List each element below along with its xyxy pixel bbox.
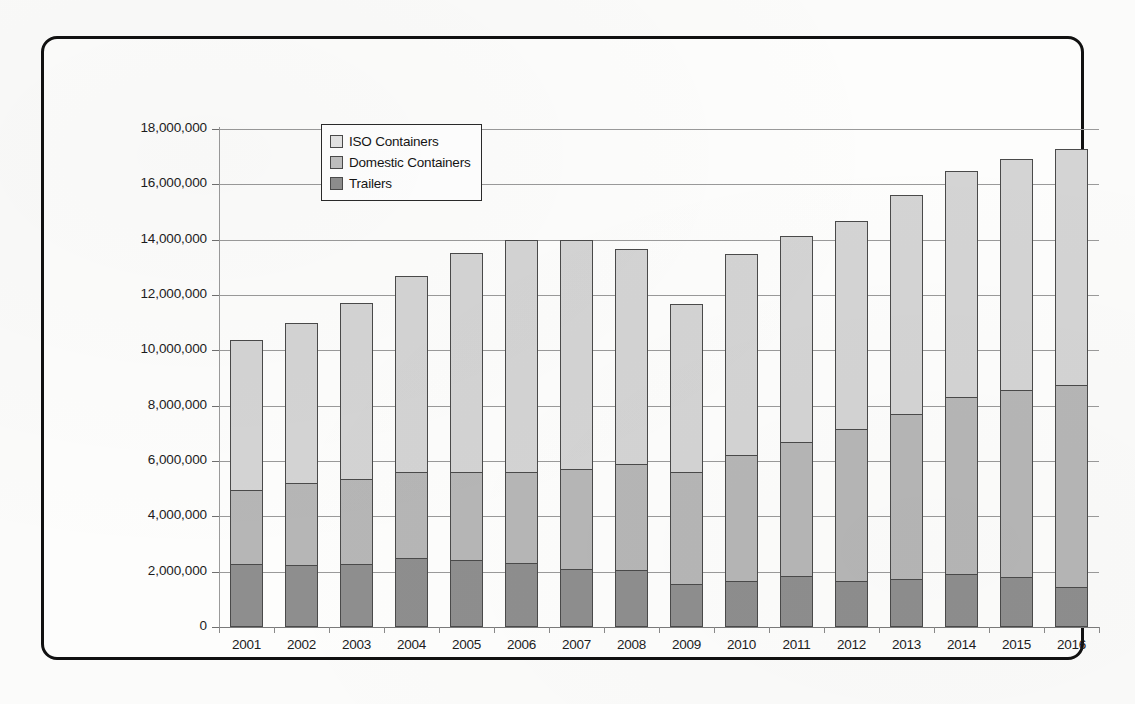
- stacked-bar: [340, 303, 373, 627]
- stacked-bar: [285, 323, 318, 627]
- bar-segment-domestic-containers: [670, 472, 703, 583]
- bar-segment-domestic-containers: [615, 464, 648, 571]
- bar-segment-trailers: [1055, 587, 1088, 627]
- x-axis-tick-mark: [384, 627, 385, 633]
- legend-label-domestic: Domestic Containers: [349, 155, 471, 170]
- bar-segment-trailers: [285, 565, 318, 627]
- bar-segment-trailers: [560, 569, 593, 627]
- legend-item-domestic: Domestic Containers: [330, 152, 471, 173]
- bar-segment-iso-containers: [670, 304, 703, 472]
- stacked-bar: [725, 254, 758, 627]
- x-axis-tick-mark: [989, 627, 990, 633]
- bar-segment-iso-containers: [945, 171, 978, 398]
- bar-segment-iso-containers: [505, 240, 538, 472]
- bar-segment-iso-containers: [890, 195, 923, 414]
- y-axis-tick-mark: [212, 461, 219, 462]
- stacked-bar: [615, 249, 648, 627]
- x-axis-tick-mark: [769, 627, 770, 633]
- bar-segment-trailers: [670, 584, 703, 627]
- stacked-bar: [1000, 159, 1033, 627]
- stacked-bar: [670, 304, 703, 627]
- bar-segment-domestic-containers: [725, 455, 758, 580]
- bar-segment-domestic-containers: [780, 442, 813, 577]
- bar-segment-iso-containers: [230, 340, 263, 490]
- bar-segment-trailers: [395, 558, 428, 627]
- x-axis-tick-label: 2016: [1039, 637, 1105, 652]
- chart-legend: ISO Containers Domestic Containers Trail…: [321, 124, 482, 201]
- bar-segment-domestic-containers: [340, 479, 373, 564]
- bar-segment-trailers: [835, 581, 868, 627]
- stacked-bar: [945, 171, 978, 627]
- bar-segment-domestic-containers: [505, 472, 538, 563]
- bar-segment-trailers: [725, 581, 758, 627]
- bar-segment-iso-containers: [835, 221, 868, 429]
- x-axis-tick-mark: [824, 627, 825, 633]
- y-axis-tick-mark: [212, 129, 219, 130]
- bar-segment-iso-containers: [560, 240, 593, 469]
- bar-segment-domestic-containers: [835, 429, 868, 581]
- y-axis-tick-mark: [212, 406, 219, 407]
- legend-label-trailers: Trailers: [349, 176, 392, 191]
- bar-segment-iso-containers: [450, 253, 483, 472]
- y-axis-tick-mark: [212, 627, 219, 628]
- bar-segment-trailers: [450, 560, 483, 627]
- y-axis-tick-mark: [212, 572, 219, 573]
- y-axis-tick-mark: [212, 184, 219, 185]
- x-axis-tick-mark: [879, 627, 880, 633]
- stacked-bar: [505, 240, 538, 627]
- legend-label-iso: ISO Containers: [349, 134, 439, 149]
- x-axis-tick-mark: [329, 627, 330, 633]
- bar-segment-iso-containers: [1055, 149, 1088, 385]
- bar-segment-domestic-containers: [1000, 390, 1033, 577]
- y-axis-tick-label: 12,000,000: [57, 286, 207, 301]
- stacked-bar: [230, 340, 263, 627]
- y-axis-tick-label: 14,000,000: [57, 231, 207, 246]
- bar-segment-domestic-containers: [890, 414, 923, 579]
- y-axis-tick-mark: [212, 350, 219, 351]
- stacked-bar: [890, 195, 923, 627]
- bar-segment-iso-containers: [340, 303, 373, 479]
- x-axis-tick-mark: [659, 627, 660, 633]
- bar-segment-domestic-containers: [230, 490, 263, 564]
- y-axis-tick-mark: [212, 516, 219, 517]
- stacked-bar: [395, 276, 428, 627]
- y-axis-tick-label: 10,000,000: [57, 341, 207, 356]
- legend-item-iso: ISO Containers: [330, 131, 471, 152]
- bar-segment-trailers: [505, 563, 538, 627]
- bar-segment-trailers: [340, 564, 373, 627]
- scanned-page: 02,000,0004,000,0006,000,0008,000,00010,…: [0, 0, 1135, 704]
- bar-segment-domestic-containers: [450, 472, 483, 560]
- stacked-bar: [780, 236, 813, 627]
- bar-segment-iso-containers: [1000, 159, 1033, 391]
- bar-segment-iso-containers: [780, 236, 813, 442]
- stacked-bar: [835, 221, 868, 627]
- stacked-bar: [1055, 149, 1088, 627]
- stacked-bar: [450, 253, 483, 627]
- plot-area: 02,000,0004,000,0006,000,0008,000,00010,…: [219, 129, 1099, 627]
- x-axis-tick-mark: [1099, 627, 1100, 633]
- stacked-bar: [560, 240, 593, 627]
- y-axis-tick-label: 18,000,000: [57, 120, 207, 135]
- y-axis-tick-label: 16,000,000: [57, 175, 207, 190]
- y-axis-tick-label: 2,000,000: [57, 563, 207, 578]
- x-axis-tick-mark: [439, 627, 440, 633]
- bar-segment-iso-containers: [725, 254, 758, 455]
- chart-frame: 02,000,0004,000,0006,000,0008,000,00010,…: [41, 36, 1084, 660]
- x-axis-tick-mark: [219, 627, 220, 633]
- bar-segment-trailers: [230, 564, 263, 627]
- x-axis-tick-mark: [549, 627, 550, 633]
- bar-segment-trailers: [890, 579, 923, 627]
- x-axis-tick-mark: [714, 627, 715, 633]
- bar-segment-trailers: [945, 574, 978, 627]
- x-axis-tick-mark: [604, 627, 605, 633]
- bar-segment-iso-containers: [285, 323, 318, 483]
- iso-containers-swatch-icon: [330, 135, 343, 148]
- y-axis-tick-label: 0: [57, 618, 207, 633]
- bar-segment-iso-containers: [395, 276, 428, 472]
- legend-item-trailers: Trailers: [330, 173, 471, 194]
- bar-segment-trailers: [615, 570, 648, 627]
- bar-segment-domestic-containers: [395, 472, 428, 558]
- bar-segment-domestic-containers: [945, 397, 978, 574]
- bar-segment-trailers: [1000, 577, 1033, 627]
- x-axis-tick-mark: [1044, 627, 1045, 633]
